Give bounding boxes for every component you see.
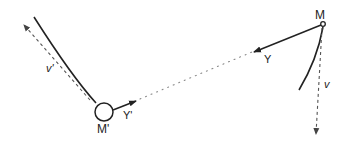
connecting-dotted-line: [140, 52, 252, 99]
label-m-prime: M': [97, 122, 109, 136]
two-body-diagram: M Y v M' Y' v': [0, 0, 351, 144]
label-m: M: [315, 8, 325, 22]
velocity-arrow-v-prime: [24, 25, 90, 100]
label-v-prime: v': [46, 62, 55, 74]
body-m-point: [321, 22, 326, 27]
label-y-prime: Y': [123, 109, 132, 121]
label-y: Y: [264, 53, 272, 65]
force-arrow-y: [254, 25, 321, 52]
trajectory-curve-m-prime: [34, 17, 96, 103]
trajectory-curve-m: [299, 27, 323, 90]
body-m-prime-circle: [95, 103, 113, 121]
label-v: v: [324, 78, 331, 90]
